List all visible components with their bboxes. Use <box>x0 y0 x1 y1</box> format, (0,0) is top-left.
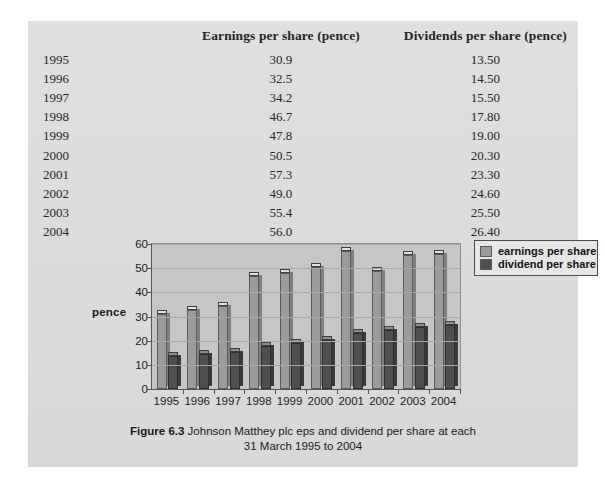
x-axis-tick-label: 2004 <box>431 395 457 407</box>
gridline <box>152 317 460 318</box>
bar-side <box>394 329 397 386</box>
cell-eps: 34.2 <box>169 88 393 107</box>
bar-dividend-per-share <box>199 354 209 389</box>
bar-earnings-per-share <box>218 306 228 389</box>
cell-eps: 55.4 <box>169 204 393 223</box>
bar-side <box>455 324 458 386</box>
bar-top-cap <box>280 269 290 273</box>
bar-top-cap <box>322 336 332 340</box>
bar-face <box>415 327 425 389</box>
y-axis-tick-label: 10 <box>126 359 148 371</box>
cell-year: 1998 <box>28 108 169 127</box>
bar-chart: pence 0102030405060 earnings per share d… <box>62 232 582 400</box>
eps-dividend-table: Earnings per share (pence) Dividends per… <box>28 28 578 242</box>
bar-dividend-per-share <box>168 356 178 389</box>
bar-earnings-per-share <box>280 273 290 389</box>
x-axis-tick-mark <box>429 389 430 394</box>
bar-top-cap <box>261 342 271 346</box>
figure-6-3: pence 0102030405060 earnings per share d… <box>28 232 578 467</box>
bar-face <box>384 330 394 389</box>
bar-top-cap <box>187 306 197 310</box>
table-row: 200050.520.30 <box>28 146 578 165</box>
cell-year: 2001 <box>28 165 169 184</box>
bar-earnings-per-share <box>403 255 413 389</box>
x-axis-tick-label: 2002 <box>369 395 395 407</box>
cell-dps: 24.60 <box>393 184 578 203</box>
x-axis-tick-mark <box>460 389 461 394</box>
gridline <box>152 365 460 366</box>
bar-top-cap <box>249 272 259 276</box>
cell-dps: 15.50 <box>393 88 578 107</box>
bar-earnings-per-share <box>372 271 382 389</box>
bar-top-cap <box>218 302 228 306</box>
table-row: 200157.323.30 <box>28 165 578 184</box>
plot-area: 0102030405060 <box>151 243 461 390</box>
y-axis-tick-mark <box>147 365 152 366</box>
bar-dividend-per-share <box>384 330 394 389</box>
x-axis-tick-mark <box>306 389 307 394</box>
cell-eps: 32.5 <box>169 69 393 88</box>
y-axis-tick-label: 30 <box>126 311 148 323</box>
bar-face <box>372 271 382 389</box>
gridline <box>152 244 460 245</box>
bar-dividend-per-share <box>415 327 425 389</box>
y-axis-tick-label: 40 <box>126 286 148 298</box>
legend-label-earnings: earnings per share <box>498 245 596 257</box>
table-row: 199947.819.00 <box>28 127 578 146</box>
legend-item-dividend: dividend per share <box>480 258 591 270</box>
bar-top-cap <box>353 329 363 333</box>
bar-top-cap <box>341 247 351 251</box>
bar-earnings-per-share <box>157 314 167 389</box>
table-row: 199846.717.80 <box>28 108 578 127</box>
table-row: 199530.913.50 <box>28 50 578 69</box>
bar-dividend-per-share <box>445 325 455 389</box>
bar-earnings-per-share <box>434 254 444 389</box>
cell-year: 2003 <box>28 204 169 223</box>
cell-eps: 57.3 <box>169 165 393 184</box>
x-axis-tick-mark <box>275 389 276 394</box>
cell-eps: 49.0 <box>169 184 393 203</box>
y-axis-tick-label: 60 <box>126 238 148 250</box>
bar-face <box>280 273 290 389</box>
x-axis-tick-mark <box>214 389 215 394</box>
cell-year: 1996 <box>28 69 169 88</box>
legend-item-earnings: earnings per share <box>480 245 591 257</box>
column-header-eps: Earnings per share (pence) <box>169 28 393 50</box>
figure-caption-line1: Johnson Matthey plc eps and dividend per… <box>188 425 476 437</box>
y-axis-tick-mark <box>147 341 152 342</box>
bar-face <box>168 356 178 389</box>
bar-face <box>261 346 271 389</box>
bar-side <box>425 326 428 386</box>
bar-top-cap <box>199 350 209 354</box>
bar-top-cap <box>415 323 425 327</box>
x-axis-tick-mark <box>183 389 184 394</box>
x-axis-tick-mark <box>337 389 338 394</box>
table-header-row: Earnings per share (pence) Dividends per… <box>28 28 578 50</box>
bar-earnings-per-share <box>341 251 351 389</box>
x-axis-tick-mark <box>398 389 399 394</box>
cell-eps: 47.8 <box>169 127 393 146</box>
table-row: 199632.514.50 <box>28 69 578 88</box>
table-row: 200355.425.50 <box>28 204 578 223</box>
x-axis-tick-label: 2003 <box>400 395 426 407</box>
cell-dps: 19.00 <box>393 127 578 146</box>
bar-dividend-per-share <box>261 346 271 389</box>
cell-dps: 23.30 <box>393 165 578 184</box>
cell-year: 2000 <box>28 146 169 165</box>
bar-face <box>341 251 351 389</box>
x-axis-tick-label: 1996 <box>184 395 210 407</box>
column-header-year <box>28 28 169 50</box>
bar-earnings-per-share <box>187 310 197 389</box>
bar-face <box>187 310 197 389</box>
cell-dps: 25.50 <box>393 204 578 223</box>
gridline <box>152 268 460 269</box>
cell-year: 1995 <box>28 50 169 69</box>
y-axis-label: pence <box>92 306 126 318</box>
figure-caption-label: Figure 6.3 <box>130 425 184 437</box>
cell-dps: 14.50 <box>393 69 578 88</box>
bar-dividend-per-share <box>291 343 301 389</box>
y-axis-tick-label: 20 <box>126 335 148 347</box>
y-axis-tick-mark <box>147 389 152 390</box>
cell-year: 1999 <box>28 127 169 146</box>
bar-face <box>230 352 240 389</box>
